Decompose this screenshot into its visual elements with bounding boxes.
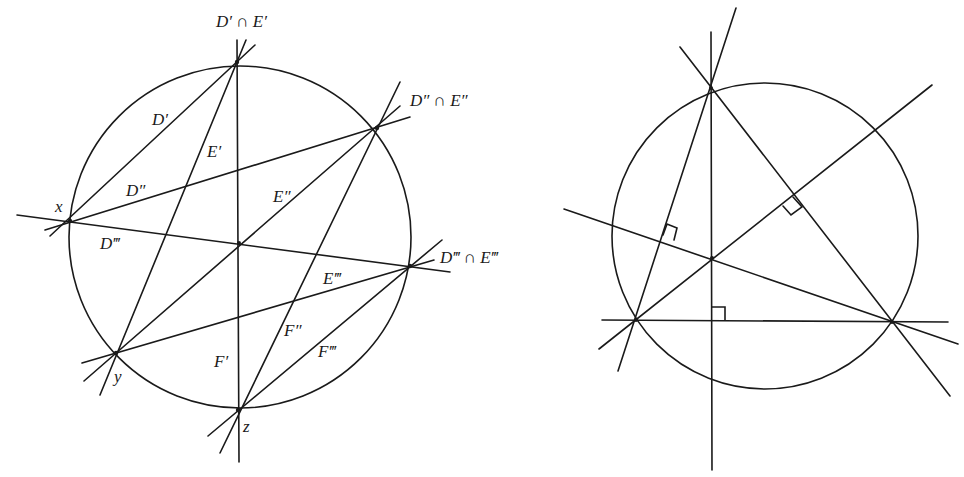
label-e1: E′ — [206, 142, 221, 161]
label-f3: F‴ — [317, 342, 336, 361]
label-e2: E″ — [272, 187, 291, 206]
side-bc — [602, 320, 948, 322]
line-d3 — [17, 215, 450, 272]
vertical-line — [237, 40, 239, 462]
label-x: x — [54, 197, 63, 216]
altitude-a — [711, 32, 712, 470]
line-e2 — [84, 106, 400, 381]
label-d3: D‴ — [99, 234, 120, 253]
label-d3e3: D‴ ∩ E‴ — [439, 248, 499, 267]
line-e1 — [100, 40, 246, 395]
label-d1e1: D′ ∩ E′ — [215, 12, 267, 31]
right-figure — [564, 8, 958, 470]
side-ab — [618, 8, 736, 371]
left-figure: D′ ∩ E′ D″ ∩ E″ D‴ ∩ E‴ x y z D′ D″ D‴ E… — [17, 12, 499, 462]
vertex-b — [634, 318, 638, 322]
right-angle-mark-bc — [712, 307, 725, 320]
label-f2: F″ — [283, 321, 302, 340]
vertex-a — [709, 86, 713, 90]
diagram-canvas: D′ ∩ E′ D″ ∩ E″ D‴ ∩ E‴ x y z D′ D″ D‴ E… — [0, 0, 964, 477]
point-d2e2 — [375, 126, 379, 130]
label-d2: D″ — [125, 181, 146, 200]
side-ac — [680, 47, 950, 396]
right-angle-mark-ac — [783, 197, 802, 215]
label-f1: F′ — [213, 352, 228, 371]
line-f2 — [220, 82, 400, 453]
right-circle — [612, 83, 918, 389]
point-d3e3 — [408, 264, 412, 268]
altitude-c — [564, 209, 958, 344]
label-d1: D′ — [151, 110, 168, 129]
label-d2e2: D″ ∩ E″ — [409, 91, 469, 110]
point-d1e1 — [235, 60, 239, 64]
line-d1 — [50, 45, 255, 236]
label-e3: E‴ — [322, 269, 341, 288]
point-z — [236, 408, 240, 412]
left-circle — [69, 66, 411, 408]
vertex-c — [890, 320, 894, 324]
point-x — [68, 219, 72, 223]
label-y: y — [112, 367, 122, 386]
point-center — [237, 241, 241, 245]
orthocenter — [710, 256, 714, 260]
point-y — [114, 351, 118, 355]
label-z: z — [242, 417, 250, 436]
